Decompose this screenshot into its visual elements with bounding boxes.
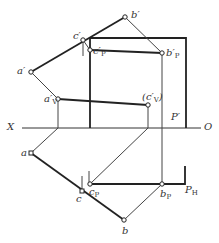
diagram-lines [0,0,219,243]
label-av-prime-sub: V [52,98,57,106]
label-bp-sub: P [166,193,171,201]
label-bp: bP [160,189,171,201]
label-cv-prime-suffix: ) [159,91,163,102]
axis-o-label: O [204,122,212,132]
edge-a-prime-b-prime [31,17,125,72]
label-cv-prime-main: (c′ [142,91,154,102]
label-a-prime: a′ [17,66,25,76]
label-c-prime: c′ [73,31,81,41]
label-plane-ph: PH [185,185,198,197]
label-cp-prime-main: c′ [93,45,101,56]
fold-a [31,128,58,153]
point-a [29,151,33,155]
label-cp-sub: P [95,191,100,199]
point-bp-prime [160,51,164,55]
label-av-prime: a′V [44,94,57,106]
projection-diagram: X O b′ c′ c′P b′P a′ a′V (c′V) P′ a c cP… [0,0,219,243]
label-plane-ph-sub: H [192,189,198,197]
label-b-prime: b′ [131,10,140,20]
label-bp-prime-main: b′ [166,47,175,58]
point-cp-prime [88,48,92,52]
point-bp [160,182,164,186]
label-plane-ph-main: P [185,184,192,195]
label-cp-prime-sub: P [101,50,106,58]
fold-c [90,128,148,184]
label-b: b [122,226,128,236]
point-b-prime [123,15,127,19]
point-b [122,218,126,222]
label-bp-prime-sub: P [175,52,180,60]
label-av-prime-main: a′ [44,93,52,104]
label-plane-p-prime: P′ [171,112,180,122]
label-cp-prime: c′P [93,46,106,58]
label-a: a [21,148,27,158]
plane-ph-trace [90,166,185,184]
label-c: c [76,194,82,204]
point-c-prime [81,38,85,42]
edge-b-prime-bp-prime [125,17,162,53]
label-cv-prime: (c′V) [142,92,163,104]
point-a-prime [29,70,33,74]
label-bp-prime: b′P [166,48,179,60]
label-cp: cP [89,187,99,199]
axis-x-label: X [7,122,14,132]
edge-av-cv-prime [58,99,148,105]
edge-b-bp [124,184,162,220]
edge-a-b [31,153,124,220]
